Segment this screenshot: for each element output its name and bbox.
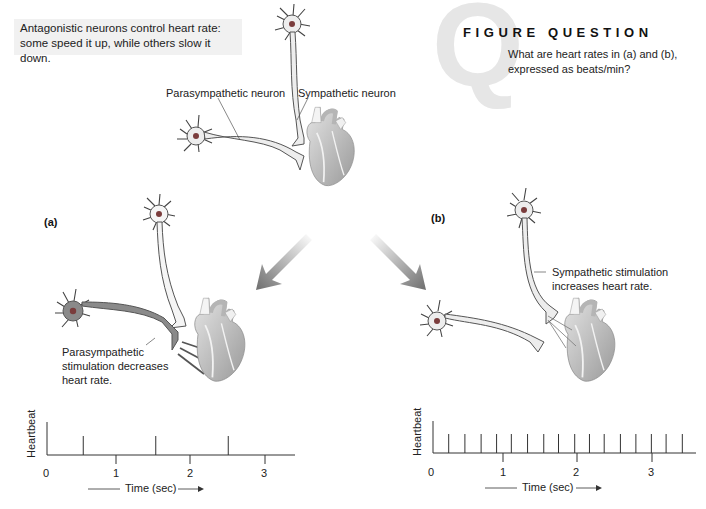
illustration-canvas bbox=[0, 0, 706, 509]
panel-a-leader-line bbox=[146, 338, 155, 345]
chart-b-axis-ticks bbox=[503, 453, 652, 462]
panel-b-label: (b) bbox=[431, 212, 445, 224]
chart-a-xlabel: Time (sec) bbox=[125, 482, 177, 494]
chart-b-tick-1: 1 bbox=[500, 466, 506, 478]
chart-a-tick-0: 0 bbox=[43, 467, 49, 479]
panel-a-parasympathetic-neuron bbox=[55, 289, 178, 350]
heart-a bbox=[195, 298, 245, 381]
sympathetic-neuron-label: Sympathetic neuron bbox=[298, 86, 396, 100]
heart-top bbox=[307, 107, 354, 185]
chart-a-axis-ticks bbox=[116, 455, 265, 464]
panel-b-sympathetic-neuron bbox=[507, 188, 558, 324]
nucleus-icon bbox=[193, 133, 199, 139]
chart-a-beats bbox=[83, 436, 228, 455]
chart-a-ylabel: Heartbeat bbox=[25, 410, 37, 458]
nucleus-icon bbox=[521, 207, 527, 213]
chart-b-tick-0: 0 bbox=[428, 466, 434, 478]
parasympathetic-neuron-label: Parasympathetic neuron bbox=[166, 86, 285, 100]
arrow-to-b-icon bbox=[370, 234, 426, 290]
panel-a-sympathetic-neuron bbox=[143, 194, 186, 328]
nucleus-icon bbox=[434, 318, 440, 324]
nucleus-icon bbox=[289, 21, 295, 27]
panel-a-callout-line-1: Parasympathetic bbox=[62, 345, 168, 359]
chart-a-tick-3: 3 bbox=[261, 467, 267, 479]
nucleus-icon bbox=[156, 211, 162, 217]
chart-b-tick-3: 3 bbox=[648, 466, 654, 478]
chart-b-beats bbox=[449, 434, 683, 453]
panel-b-parasympathetic-neuron bbox=[420, 300, 544, 352]
chart-a-tick-2: 2 bbox=[187, 467, 193, 479]
panel-a-label: (a) bbox=[44, 216, 57, 228]
top-parasympathetic-neuron bbox=[177, 115, 304, 170]
chart-b-xlabel: Time (sec) bbox=[522, 481, 574, 493]
panel-a-callout: Parasympathetic stimulation decreases he… bbox=[62, 345, 168, 387]
panel-a-callout-line-2: stimulation decreases bbox=[62, 359, 168, 373]
panel-b-callout: Sympathetic stimulation increases heart … bbox=[552, 265, 668, 293]
panel-a-callout-line-3: heart rate. bbox=[62, 373, 168, 387]
chart-a-tick-1: 1 bbox=[113, 467, 119, 479]
panel-b-callout-line-1: Sympathetic stimulation bbox=[552, 265, 668, 279]
panel-b-callout-line-2: increases heart rate. bbox=[552, 279, 668, 293]
parasympathetic-leader-line bbox=[218, 98, 240, 140]
chart-b-ylabel: Heartbeat bbox=[411, 408, 423, 456]
arrow-to-a-icon bbox=[256, 234, 312, 290]
chart-b-tick-2: 2 bbox=[573, 466, 579, 478]
nucleus-icon bbox=[70, 308, 76, 314]
top-sympathetic-neuron bbox=[275, 4, 310, 146]
heart-b bbox=[565, 298, 615, 381]
